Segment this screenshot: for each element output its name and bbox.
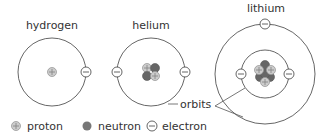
helium-orbit: [117, 38, 185, 106]
electron-icon: [284, 69, 294, 79]
electron-icon: [81, 67, 91, 77]
legend-neutron-label: neutron: [98, 120, 141, 133]
electron-icon: [236, 69, 246, 79]
hydrogen-atom: hydrogen: [18, 19, 91, 106]
helium-label: helium: [132, 19, 170, 32]
lithium-atom: lithium: [215, 2, 315, 124]
atom-diagram: hydrogen helium lithium orbits: [0, 0, 321, 138]
legend-proton-label: proton: [27, 120, 63, 133]
helium-atom: helium: [112, 19, 190, 106]
proton-icon: [48, 68, 57, 77]
orbits-label: orbits: [180, 98, 212, 111]
legend-proton-icon: [12, 122, 21, 131]
proton-icon: [143, 64, 152, 73]
legend-electron-icon: [147, 121, 157, 131]
hydrogen-label: hydrogen: [26, 19, 78, 32]
proton-icon: [261, 78, 270, 87]
lithium-label: lithium: [247, 2, 285, 15]
electron-icon: [180, 67, 190, 77]
legend-neutron-icon: [83, 122, 92, 131]
orbits-leader-outer: [215, 106, 243, 117]
proton-icon: [151, 72, 160, 81]
electron-icon: [112, 67, 122, 77]
proton-icon: [267, 66, 276, 75]
electron-icon: [260, 19, 270, 29]
proton-icon: [255, 66, 264, 75]
legend-electron-label: electron: [162, 120, 207, 133]
legend: proton neutron electron: [12, 120, 207, 133]
orbits-leader-inner: [215, 88, 245, 106]
